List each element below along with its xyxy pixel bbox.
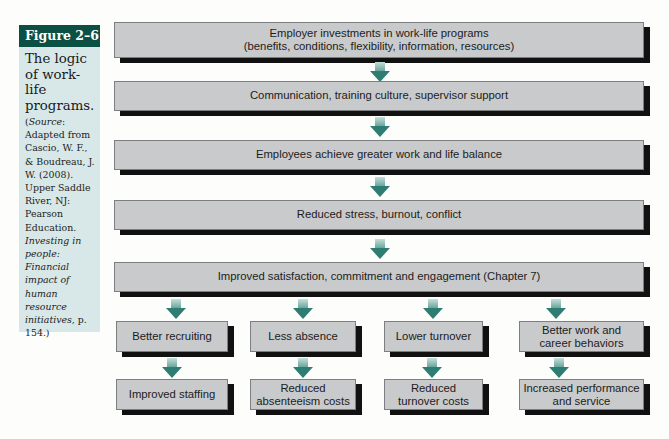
down-arrow-icon <box>370 177 390 197</box>
source-citation: : Adapted from Cascio, W. F., & Boudreau… <box>25 116 95 233</box>
box-line: Improved satisfaction, commitment and en… <box>218 270 541 284</box>
box-line: Better work and <box>539 324 623 337</box>
down-arrow-icon <box>549 358 569 378</box>
figure-source: (Source: Adapted from Cascio, W. F., & B… <box>25 115 96 339</box>
outcome-box-better-behaviors: Better work andcareer behaviors <box>519 321 644 352</box>
box-line: and service <box>523 395 639 408</box>
figure-caption-body: The logic of work-life programs. (Source… <box>19 47 100 332</box>
box-line: Employer investments in work-life progra… <box>244 27 514 41</box>
down-arrow-icon <box>162 358 182 378</box>
box-line: Employees achieve greater work and life … <box>256 148 502 162</box>
source-book-title: Investing in people: Financial impact of… <box>25 235 81 325</box>
box-line: (benefits, conditions, flexibility, info… <box>244 40 514 54</box>
result-box-reduced-absenteeism-costs: Reducedabsenteeism costs <box>250 379 356 410</box>
box-line: Lower turnover <box>396 330 471 343</box>
box-line: Better recruiting <box>132 330 212 343</box>
down-arrow-icon <box>293 358 313 378</box>
box-line: career behaviors <box>539 337 623 350</box>
box-line: Reduced <box>256 382 350 395</box>
result-box-reduced-turnover-costs: Reducedturnover costs <box>384 379 483 410</box>
box-line: Communication, training culture, supervi… <box>250 89 508 103</box>
box-line: turnover costs <box>398 395 469 408</box>
box-line: Less absence <box>268 330 338 343</box>
box-line: Reduced <box>398 382 469 395</box>
figure-title: The logic of work-life programs. <box>25 51 96 113</box>
down-arrow-icon <box>422 358 442 378</box>
outcome-box-lower-turnover: Lower turnover <box>384 321 483 352</box>
figure-caption-panel: Figure 2–6 The logic of work-life progra… <box>19 25 100 332</box>
flow-box-reduced-stress: Reduced stress, burnout, conflict <box>114 200 644 230</box>
down-arrow-icon <box>546 299 566 319</box>
outcome-box-less-absence: Less absence <box>250 321 356 352</box>
source-word: Source <box>29 116 62 127</box>
down-arrow-icon <box>166 299 186 319</box>
outcome-box-better-recruiting: Better recruiting <box>116 321 228 352</box>
flow-box-work-life-balance: Employees achieve greater work and life … <box>114 140 644 170</box>
box-line: Increased performance <box>523 382 639 395</box>
down-arrow-icon <box>370 62 390 82</box>
down-arrow-icon <box>423 299 443 319</box>
box-line: Reduced stress, burnout, conflict <box>297 208 462 222</box>
flow-box-improved-satisfaction: Improved satisfaction, commitment and en… <box>114 262 644 292</box>
figure-label: Figure 2–6 <box>19 25 100 47</box>
down-arrow-icon <box>370 239 390 259</box>
result-box-increased-performance: Increased performanceand service <box>519 379 644 410</box>
down-arrow-icon <box>293 299 313 319</box>
down-arrow-icon <box>370 117 390 137</box>
flow-box-communication: Communication, training culture, supervi… <box>114 81 644 111</box>
box-line: absenteeism costs <box>256 395 350 408</box>
result-box-improved-staffing: Improved staffing <box>116 379 228 410</box>
flow-box-employer-investments: Employer investments in work-life progra… <box>114 22 644 58</box>
box-line: Improved staffing <box>129 388 215 401</box>
